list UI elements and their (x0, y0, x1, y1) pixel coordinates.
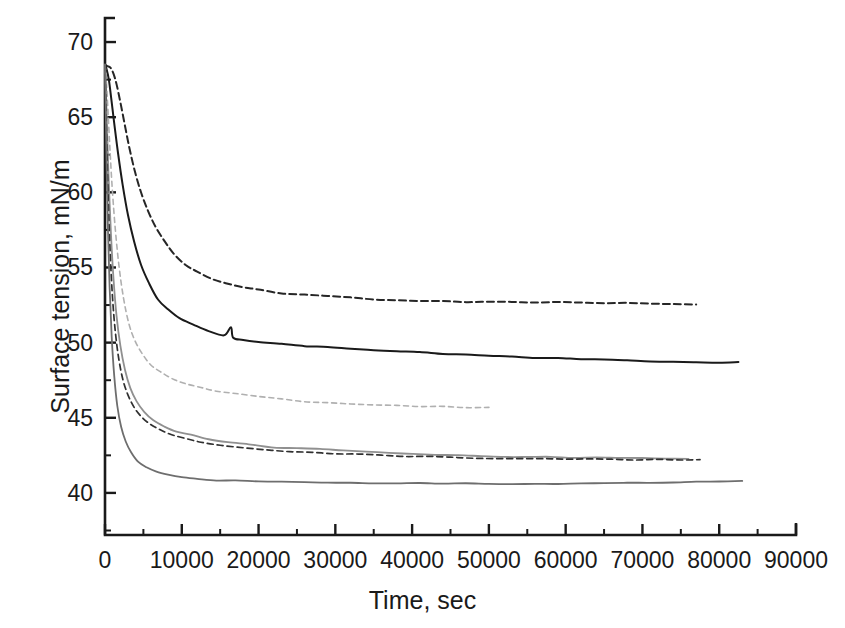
y-axis-title: Surface tension, mN/m (46, 77, 75, 497)
x-tick-label: 30000 (303, 547, 367, 574)
plot-canvas (0, 0, 845, 628)
x-tick-label: 70000 (610, 547, 674, 574)
x-tick-label: 80000 (687, 547, 751, 574)
x-tick-label: 60000 (534, 547, 598, 574)
minor-tick-marks (105, 80, 758, 535)
series-line-curve-2-dark-solid (105, 65, 738, 363)
x-tick-label: 10000 (150, 547, 214, 574)
series-line-curve-3-light-dashed (105, 65, 489, 408)
data-series-layer (105, 65, 742, 484)
series-line-curve-6-gray-solid-bottom (105, 65, 742, 484)
x-tick-label: 20000 (227, 547, 291, 574)
x-tick-label: 40000 (380, 547, 444, 574)
y-tick-label: 70 (47, 29, 93, 56)
x-tick-label: 50000 (457, 547, 521, 574)
series-line-curve-5-dark-dashed-lower (105, 65, 700, 460)
surface-tension-chart-figure: 0100002000030000400005000060000700008000… (0, 0, 845, 628)
x-axis-title: Time, sec (0, 586, 845, 615)
series-line-curve-4-gray-solid (105, 65, 689, 459)
series-line-curve-1-dark-dashed-top (105, 65, 696, 305)
x-tick-label: 0 (99, 547, 112, 574)
major-tick-marks (105, 42, 796, 535)
x-tick-label: 90000 (764, 547, 828, 574)
